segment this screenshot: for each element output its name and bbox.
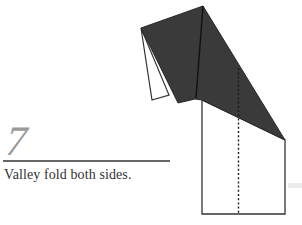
scan-smudge xyxy=(288,183,302,188)
origami-fold-diagram xyxy=(0,0,302,225)
